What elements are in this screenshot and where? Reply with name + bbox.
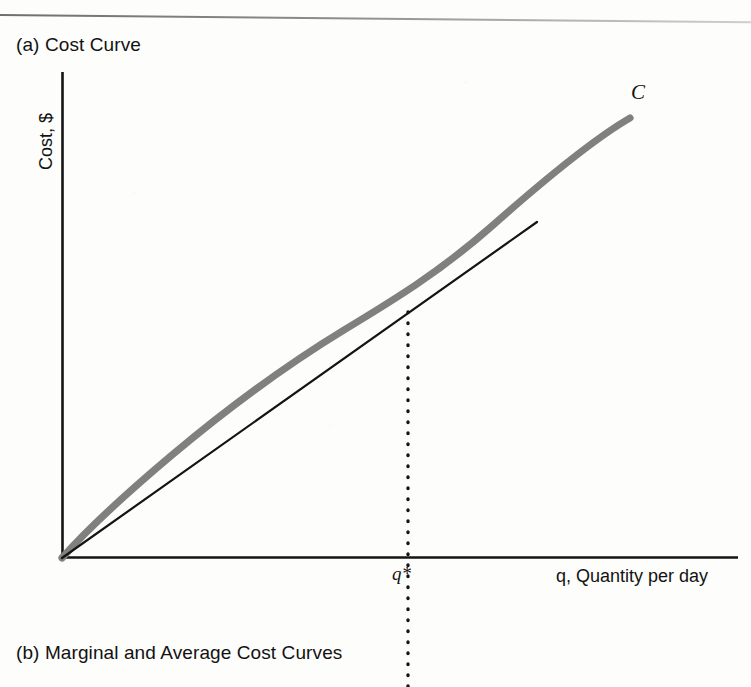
total-cost-curve [62,118,630,558]
cost-curve-label: C [631,80,645,105]
x-tick-label-q-star: q* [392,563,411,585]
panel-b-title: (b) Marginal and Average Cost Curves [16,642,342,664]
x-axis-label: q, Quantity per day [556,566,708,587]
tangent-ray [62,222,537,558]
figure-page: (a) Cost Curve Cost, $ C q* q, Quantity … [0,0,751,687]
